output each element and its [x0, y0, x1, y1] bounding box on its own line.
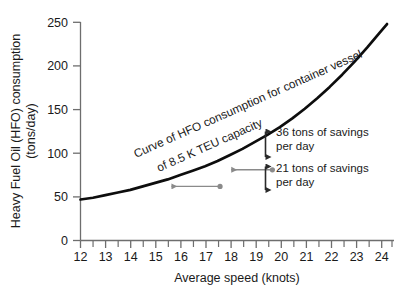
- x-tick-label-20: 20: [274, 250, 288, 264]
- lower-speed-marker-dot: [217, 184, 222, 189]
- x-tick-label-12: 12: [74, 250, 88, 264]
- savings-upper-line1: 36 tons of savings: [276, 126, 369, 138]
- y-tick-label-50: 50: [54, 190, 68, 204]
- x-tick-label-13: 13: [99, 250, 113, 264]
- x-axis-title: Average speed (knots): [174, 271, 300, 285]
- x-tick-label-16: 16: [174, 250, 188, 264]
- y-tick-label-0: 0: [61, 234, 68, 248]
- x-tick-label-24: 24: [375, 250, 389, 264]
- y-tick-label-200: 200: [47, 59, 68, 73]
- chart-container: 0 50 100 150 200 250: [0, 0, 405, 296]
- y-axis-title-line1: Heavy Fuel Oil (HFO) consumption: [9, 34, 23, 229]
- x-tick-label-18: 18: [224, 250, 238, 264]
- savings-lower-line1: 21 tons of savings: [276, 162, 369, 174]
- savings-upper-line2: per day: [276, 140, 315, 152]
- x-tick-label-19: 19: [249, 250, 263, 264]
- x-tick-label-17: 17: [199, 250, 213, 264]
- hfo-consumption-chart: 0 50 100 150 200 250: [0, 0, 405, 296]
- x-tick-label-21: 21: [299, 250, 313, 264]
- upper-speed-marker-dot: [270, 167, 275, 172]
- y-tick-label-150: 150: [47, 103, 68, 117]
- x-tick-label-22: 22: [325, 250, 339, 264]
- x-tick-label-15: 15: [149, 250, 163, 264]
- savings-lower-line2: per day: [276, 176, 315, 188]
- y-tick-label-250: 250: [47, 16, 68, 30]
- x-tick-label-23: 23: [350, 250, 364, 264]
- y-tick-label-100: 100: [47, 147, 68, 161]
- x-tick-label-14: 14: [124, 250, 138, 264]
- y-axis-title-line2: (tons/day): [24, 103, 38, 159]
